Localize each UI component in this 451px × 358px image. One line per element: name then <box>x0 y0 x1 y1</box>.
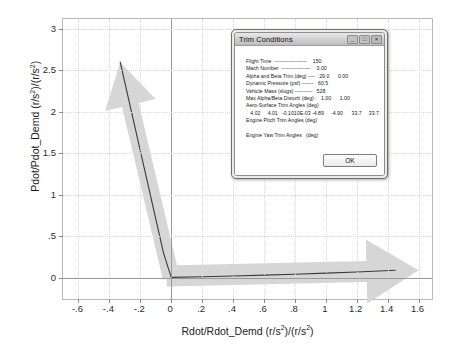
dialog-titlebar[interactable]: Trim Conditions _ □ × <box>235 33 384 46</box>
gridline-vertical <box>202 19 203 299</box>
trim-text-line: Dynamic Pressure (psf) ------- 60.5 <box>246 80 379 87</box>
x-axis-tick-label: .4 <box>228 303 236 314</box>
y-axis-tick <box>59 112 63 113</box>
y-axis-tick <box>59 70 63 71</box>
x-axis-tick-label: .6 <box>259 303 267 314</box>
y-axis-line <box>171 19 172 299</box>
trim-text-line: Max Alpha/Beta Disturb (deg) : 1.00 1.00 <box>246 95 379 102</box>
dialog-title: Trim Conditions <box>239 35 293 44</box>
screenshot-root: -.6-.4-.20.2.4.6.811.21.41.6 0.511.522.5… <box>0 0 451 358</box>
x-axis-tick-label: .2 <box>197 303 205 314</box>
minimize-icon[interactable]: _ <box>347 35 358 44</box>
x-axis-tick-label: -.4 <box>103 303 114 314</box>
trim-text-line: Vehicle Mass (slugs) ---------- 528. <box>246 88 379 95</box>
trim-text-line: Flight Time ------------------- 150. <box>246 58 379 65</box>
x-axis-title-end: ) <box>310 325 314 337</box>
y-axis-tick-label: 0 <box>4 271 56 282</box>
trim-text-line: Engine Yaw Trim Angles (deg) <box>246 132 379 139</box>
trim-conditions-dialog[interactable]: Trim Conditions _ □ × Flight Time ------… <box>231 29 388 179</box>
trim-text-line: Mach Number ----------------- 3.00 <box>246 65 379 72</box>
trim-text-line <box>246 125 379 132</box>
y-axis-tick <box>59 278 63 279</box>
gridline-horizontal <box>63 236 432 237</box>
y-axis-title: Pdot/Pdot_Demd (r/s2)/(r/s2) <box>29 6 42 246</box>
x-axis-tick-label: -.6 <box>72 303 83 314</box>
trim-conditions-text: Flight Time ------------------- 150.Mach… <box>246 58 379 139</box>
x-axis-tick-label: 1.4 <box>380 303 393 314</box>
up-arrow <box>105 62 179 280</box>
x-axis-tick-label: -.2 <box>134 303 145 314</box>
y-axis-title-end: ) <box>29 61 41 65</box>
y-axis-tick <box>59 236 63 237</box>
trim-text-line: Aero-Surface Trim Angles (deg) <box>246 102 379 109</box>
right-arrow <box>166 240 418 304</box>
y-axis-sup-2: 2 <box>29 64 36 68</box>
trim-text-line: 4.02 4.01 -0.1010E-03 -4.89 -4.90 33.7 3… <box>246 110 379 117</box>
ok-button[interactable]: OK <box>323 154 377 167</box>
trim-text-line: Engine Pitch Trim Angles (deg) <box>246 117 379 124</box>
x-axis-tick-label: 1.6 <box>411 303 424 314</box>
x-axis-title-text: Rdot/Rdot_Demd (r/s <box>181 325 280 337</box>
y-axis-sup-1: 2 <box>29 90 36 94</box>
x-axis-tick-label: 1 <box>322 303 327 314</box>
dialog-body: Flight Time ------------------- 150.Mach… <box>235 46 384 175</box>
y-axis-title-text: Pdot/Pdot_Demd (r/s <box>29 94 41 192</box>
x-axis-line <box>63 278 432 279</box>
trim-text-line: Alpha and Beta Trim (deg) ---- 29.0 0.00 <box>246 73 379 80</box>
window-controls: _ □ × <box>347 35 382 44</box>
gridline-vertical <box>78 19 79 299</box>
y-axis-tick <box>59 29 63 30</box>
x-axis-tick-label: 1.2 <box>349 303 362 314</box>
y-axis-tick <box>59 153 63 154</box>
x-axis-tick-label: .8 <box>290 303 298 314</box>
y-axis-tick <box>59 195 63 196</box>
gridline-vertical <box>140 19 141 299</box>
y-axis-title-mid: )/(r/s <box>29 68 41 90</box>
maximize-icon[interactable]: □ <box>359 35 370 44</box>
gridline-vertical <box>419 19 420 299</box>
x-axis-tick-label: 0 <box>168 303 173 314</box>
gridline-horizontal <box>63 195 432 196</box>
x-axis-title: Rdot/Rdot_Demd (r/s2)/(r/s2) <box>62 324 433 337</box>
close-icon[interactable]: × <box>371 35 382 44</box>
dialog-inner-frame: Trim Conditions _ □ × Flight Time ------… <box>234 32 385 176</box>
x-axis-title-mid: )/(r/s <box>285 325 307 337</box>
gridline-vertical <box>109 19 110 299</box>
